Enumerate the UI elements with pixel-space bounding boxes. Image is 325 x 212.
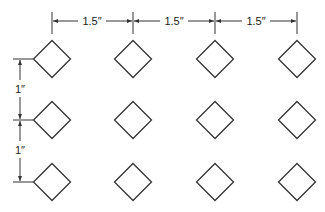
diamond-r1-c1 — [34, 41, 71, 78]
diamond-r2-c3 — [197, 102, 234, 139]
dimension-label-v1: 1″ — [15, 83, 25, 95]
diamond-r1-c4 — [279, 41, 316, 78]
dimension-label-h3: 1.5″ — [246, 15, 265, 27]
dimension-label-h2: 1.5″ — [164, 15, 183, 27]
diamond-spacing-diagram: 1.5″ 1.5″ 1.5″ 1″ 1″ — [0, 0, 325, 212]
diamond-r1-c3 — [197, 41, 234, 78]
diamond-r2-c4 — [279, 102, 316, 139]
diamond-r2-c1 — [34, 102, 71, 139]
dimension-label-v2: 1″ — [15, 144, 25, 156]
diamond-r3-c3 — [197, 164, 234, 201]
vertical-dimension-group: 1″ 1″ — [13, 59, 33, 182]
diamond-r2-c2 — [115, 102, 152, 139]
diamond-r3-c4 — [279, 164, 316, 201]
diamond-grid — [34, 41, 316, 201]
diamond-r3-c2 — [115, 164, 152, 201]
diamond-r3-c1 — [34, 164, 71, 201]
dimension-label-h1: 1.5″ — [82, 15, 101, 27]
horizontal-dimension-group: 1.5″ 1.5″ 1.5″ — [52, 12, 297, 34]
diamond-r1-c2 — [115, 41, 152, 78]
